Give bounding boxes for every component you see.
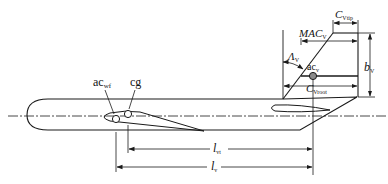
label-mac-v: MACV: [298, 27, 327, 40]
ac-wf-leader: [105, 90, 114, 114]
ac-v-marker: [309, 72, 316, 79]
label-ac-v: acv: [307, 61, 319, 73]
ac-wf-marker: [112, 115, 119, 122]
vertical-tail-diagram: acwf cg acv CVtip MACV ΛV CVroot bV lvt …: [0, 0, 388, 184]
fuselage-outline: [27, 97, 357, 130]
label-c-vroot: CVroot: [306, 82, 327, 95]
label-c-vtip: CVtip: [335, 8, 353, 21]
label-l-vt: lvt: [213, 141, 221, 155]
sweep-angle-arc: [283, 62, 303, 69]
label-b-v: bV: [364, 60, 375, 74]
label-cg: cg: [130, 75, 141, 89]
label-lambda-v: ΛV: [287, 50, 300, 63]
label-ac-wf: acwf: [93, 75, 112, 90]
label-l-v: lv: [211, 159, 217, 173]
tail-airfoil: [272, 105, 331, 112]
cg-marker: [124, 110, 131, 117]
